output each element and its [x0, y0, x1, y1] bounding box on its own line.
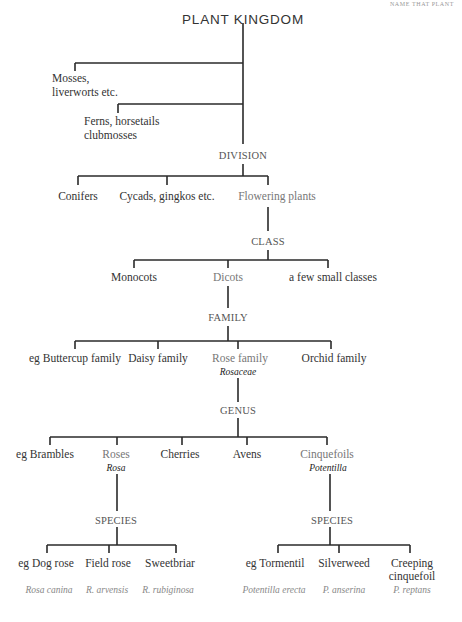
branch-ferns-line1: Ferns, horsetails: [84, 115, 159, 128]
division-cycads: Cycads, gingkos etc.: [119, 190, 214, 203]
division-flowering-plants: Flowering plants: [238, 190, 316, 203]
rank-species-rosa: SPECIES: [95, 514, 137, 527]
rank-division: DIVISION: [219, 149, 267, 162]
genus-cherries: Cherries: [161, 448, 200, 461]
family-orchid: Orchid family: [302, 352, 367, 365]
rank-class: CLASS: [251, 235, 285, 248]
genus-roses: Roses: [102, 448, 129, 461]
species-tormentil: eg Tormentil: [246, 557, 305, 570]
species-tormentil-latin: Potentilla erecta: [242, 584, 305, 597]
rank-family: FAMILY: [208, 311, 248, 324]
branch-mosses-line2: liverworts etc.: [52, 86, 118, 99]
species-dog-rose-latin: Rosa canina: [25, 584, 72, 597]
rank-species-potentilla: SPECIES: [311, 514, 353, 527]
species-dog-rose: eg Dog rose: [18, 557, 74, 570]
genus-cinquefoils-latin: Potentilla: [309, 462, 346, 475]
genus-cinquefoils: Cinquefoils: [300, 448, 354, 461]
genus-avens: Avens: [233, 448, 262, 461]
species-creeping-cinquefoil-line1: Creeping: [391, 557, 433, 570]
family-daisy: Daisy family: [128, 352, 188, 365]
family-buttercup: eg Buttercup family: [29, 352, 121, 365]
species-creeping-cinquefoil-line2: cinquefoil: [389, 570, 436, 583]
rank-genus: GENUS: [220, 404, 256, 417]
species-creeping-cinquefoil-latin: P. reptans: [393, 584, 430, 597]
species-field-rose-latin: R. arvensis: [86, 584, 128, 597]
branch-ferns-line2: clubmosses: [84, 129, 137, 142]
branch-mosses-line1: Mosses,: [52, 72, 89, 85]
species-sweetbriar: Sweetbriar: [145, 557, 195, 570]
class-small-classes: a few small classes: [289, 271, 377, 284]
division-conifers: Conifers: [58, 190, 98, 203]
family-rose-latin: Rosaceae: [220, 366, 256, 379]
class-monocots: Monocots: [111, 271, 157, 284]
species-sweetbriar-latin: R. rubiginosa: [142, 584, 194, 597]
species-field-rose: Field rose: [85, 557, 131, 570]
species-silverweed: Silverweed: [318, 557, 370, 570]
genus-roses-latin: Rosa: [107, 462, 126, 475]
genus-brambles: eg Brambles: [16, 448, 74, 461]
family-rose: Rose family: [212, 352, 268, 365]
class-dicots: Dicots: [213, 271, 243, 284]
species-silverweed-latin: P. anserina: [323, 584, 366, 597]
diagram-title: PLANT KINGDOM: [182, 12, 304, 27]
